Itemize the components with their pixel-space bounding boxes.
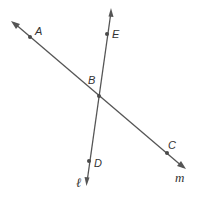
point-d — [87, 159, 91, 163]
point-e — [105, 32, 109, 36]
label-line-l: ℓ — [76, 175, 82, 190]
label-d: D — [94, 157, 102, 169]
label-a: A — [34, 25, 42, 37]
label-line-m: m — [175, 170, 184, 185]
label-b: B — [88, 74, 95, 86]
arrowhead-l-top — [109, 8, 114, 17]
point-c — [165, 151, 169, 155]
arrowhead-l-bottom — [85, 177, 90, 186]
label-e: E — [112, 28, 120, 40]
point-a — [28, 35, 32, 39]
label-c: C — [168, 139, 176, 151]
geometry-diagram: A E B C D ℓ m — [0, 0, 197, 203]
point-b — [97, 94, 101, 98]
